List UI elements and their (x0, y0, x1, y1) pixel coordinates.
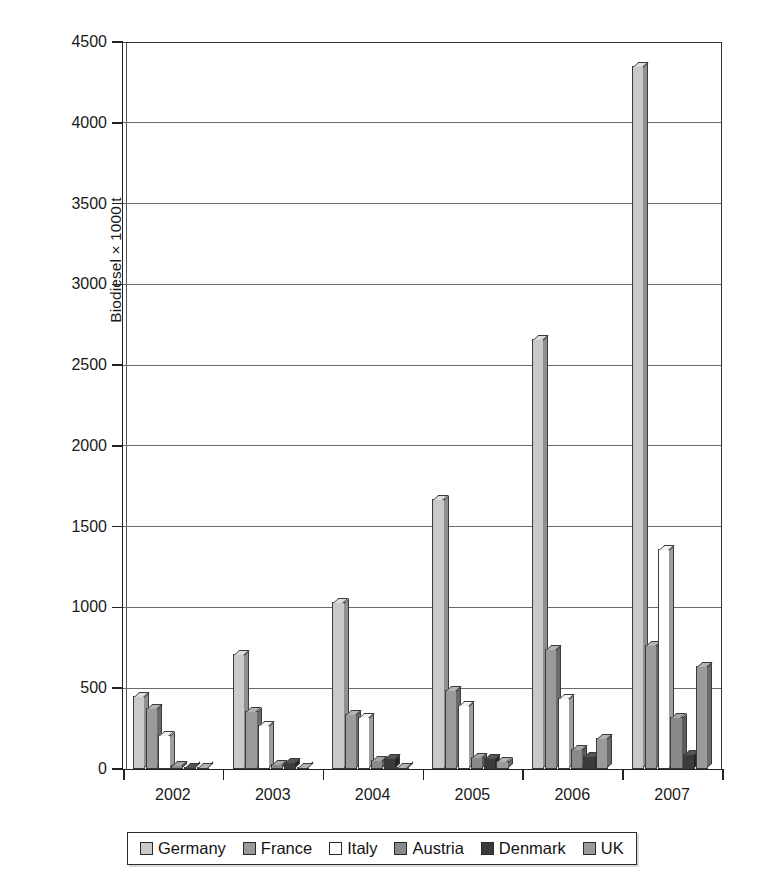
legend-label-denmark: Denmark (499, 839, 566, 858)
x-tick-label-2004: 2004 (355, 786, 391, 804)
bar-uk-2005 (496, 761, 508, 769)
y-tick-label-0: 0 (98, 760, 107, 778)
legend-swatch-france (243, 842, 256, 855)
bar-denmark-2004 (384, 758, 396, 769)
x-tick-2002 (223, 769, 225, 780)
bar-denmark-2002 (184, 767, 196, 769)
bar-uk-2006 (596, 738, 608, 769)
bar-italy-2006 (558, 698, 570, 769)
bar-cluster-2006 (522, 42, 622, 769)
bar-germany-2006 (532, 339, 544, 769)
y-tick-label-500: 500 (80, 679, 107, 697)
bar-uk-2002 (197, 767, 209, 769)
bar-france-2003 (245, 711, 257, 769)
bar-denmark-2005 (484, 758, 496, 769)
legend-label-italy: Italy (347, 839, 377, 858)
x-tick-2006 (622, 769, 624, 780)
legend-item-france[interactable]: France (243, 839, 312, 858)
y-tick-label-3500: 3500 (71, 195, 107, 213)
legend-item-denmark[interactable]: Denmark (481, 839, 566, 858)
legend-item-austria[interactable]: Austria (394, 839, 463, 858)
bar-top-face (397, 763, 413, 768)
bar-france-2002 (146, 708, 158, 769)
legend-swatch-austria (394, 842, 407, 855)
bar-denmark-2006 (583, 756, 595, 769)
x-tick-2004 (423, 769, 425, 780)
bar-austria-2005 (471, 757, 483, 769)
legend-item-germany[interactable]: Germany (140, 839, 226, 858)
legend-label-austria: Austria (412, 839, 463, 858)
legend-item-italy[interactable]: Italy (329, 839, 377, 858)
bar-germany-2004 (332, 602, 344, 769)
bar-cluster-2002 (123, 42, 223, 769)
bar-austria-2002 (171, 765, 183, 769)
bar-austria-2006 (571, 749, 583, 769)
bar-italy-2003 (258, 725, 270, 769)
bar-cluster-2004 (323, 42, 423, 769)
y-tick-label-4000: 4000 (71, 114, 107, 132)
legend-item-uk[interactable]: UK (583, 839, 624, 858)
bar-italy-2002 (158, 735, 170, 769)
x-tick-2007 (722, 769, 724, 780)
x-tick-label-2003: 2003 (255, 786, 291, 804)
bar-italy-2007 (658, 549, 670, 769)
bar-austria-2007 (670, 717, 682, 770)
bar-austria-2003 (271, 764, 283, 769)
bar-side-face (269, 721, 274, 768)
bar-france-2007 (645, 645, 657, 769)
legend-swatch-italy (329, 842, 342, 855)
y-tick-2000 (112, 445, 123, 447)
y-tick-label-1500: 1500 (71, 518, 107, 536)
x-tick-origin (123, 769, 125, 780)
plot-area: 0500100015002000250030003500400045002002… (122, 42, 722, 770)
x-tick-label-2002: 2002 (155, 786, 191, 804)
bar-top-face (298, 763, 314, 768)
bar-denmark-2003 (284, 762, 296, 769)
bar-france-2004 (345, 714, 357, 769)
bar-germany-2003 (233, 654, 245, 770)
y-tick-4500 (112, 41, 123, 43)
x-tick-label-2006: 2006 (554, 786, 590, 804)
bar-italy-2005 (458, 705, 470, 769)
y-tick-3500 (112, 203, 123, 205)
bar-france-2006 (545, 649, 557, 769)
y-tick-label-1000: 1000 (71, 598, 107, 616)
legend-label-germany: Germany (158, 839, 226, 858)
legend-swatch-germany (140, 842, 153, 855)
bar-cluster-2005 (423, 42, 523, 769)
y-tick-500 (112, 687, 123, 689)
bar-denmark-2007 (683, 754, 695, 769)
bar-germany-2005 (432, 499, 444, 769)
y-tick-1000 (112, 607, 123, 609)
legend-label-france: France (261, 839, 312, 858)
legend: GermanyFranceItalyAustriaDenmarkUK (127, 832, 637, 865)
bar-germany-2007 (632, 66, 644, 769)
x-tick-label-2007: 2007 (654, 786, 690, 804)
y-tick-0 (112, 768, 123, 770)
bar-side-face (707, 662, 712, 768)
biodiesel-bar-chart: Biodiesel × 1000 t 050010001500200025003… (0, 0, 768, 891)
y-tick-4000 (112, 122, 123, 124)
x-tick-label-2005: 2005 (455, 786, 491, 804)
bar-austria-2004 (371, 760, 383, 769)
bar-uk-2007 (696, 666, 708, 769)
x-tick-2003 (323, 769, 325, 780)
bar-uk-2004 (396, 767, 408, 769)
y-tick-1500 (112, 526, 123, 528)
legend-swatch-uk (583, 842, 596, 855)
bar-france-2005 (445, 690, 457, 769)
y-tick-label-2500: 2500 (71, 356, 107, 374)
bar-germany-2002 (133, 696, 145, 769)
legend-swatch-denmark (481, 842, 494, 855)
bar-uk-2003 (297, 767, 309, 769)
y-tick-label-4500: 4500 (71, 33, 107, 51)
y-tick-label-2000: 2000 (71, 437, 107, 455)
bar-side-face (607, 734, 612, 768)
y-tick-3000 (112, 284, 123, 286)
y-tick-label-3000: 3000 (71, 275, 107, 293)
legend-label-uk: UK (601, 839, 624, 858)
x-tick-2005 (522, 769, 524, 780)
bar-cluster-2007 (622, 42, 722, 769)
bar-italy-2004 (358, 717, 370, 769)
bar-cluster-2003 (223, 42, 323, 769)
